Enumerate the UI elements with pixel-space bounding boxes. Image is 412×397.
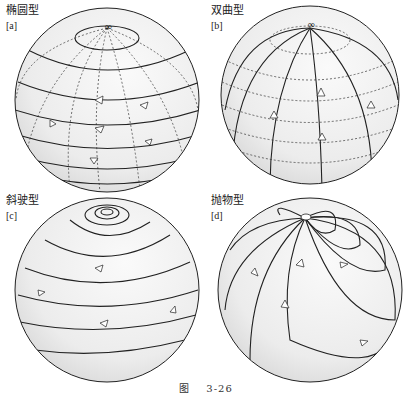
sphere-elliptic: ∞ — [15, 8, 200, 192]
figure-canvas: ∞ ∞ — [0, 0, 412, 397]
svg-text:∞: ∞ — [307, 19, 315, 30]
figure-caption: 图 3-26 — [0, 380, 412, 395]
panel-a-tag: [a] — [6, 20, 17, 31]
panel-d-title: 抛物型 — [211, 194, 244, 207]
sphere-hyperbolic: ∞ — [221, 6, 399, 190]
caption-number: 3-26 — [206, 383, 232, 394]
panel-a-title: 椭圆型 — [6, 4, 39, 17]
panel-c-title: 斜驶型 — [6, 194, 39, 207]
panel-b-tag: [b] — [211, 20, 223, 31]
panel-d-tag: [d] — [211, 210, 223, 221]
sphere-parabolic — [218, 198, 402, 382]
panel-b-title: 双曲型 — [211, 4, 244, 17]
svg-text:∞: ∞ — [104, 21, 112, 32]
caption-prefix: 图 — [179, 383, 190, 394]
panel-c-tag: [c] — [6, 210, 17, 221]
sphere-loxodromic — [15, 198, 199, 382]
